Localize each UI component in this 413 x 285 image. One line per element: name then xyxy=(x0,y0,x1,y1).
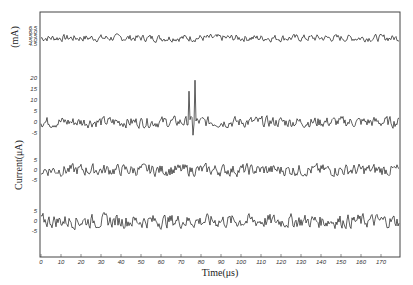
y-tick-label: 15 xyxy=(30,86,37,92)
x-tick-label: 10 xyxy=(58,259,65,265)
x-axis-label: Time(μs) xyxy=(202,267,239,279)
x-tick-label: 120 xyxy=(276,259,287,265)
x-tick-label: 150 xyxy=(336,259,347,265)
y-tick-label: -5 xyxy=(32,177,38,183)
y-tick-label: 5 xyxy=(34,157,38,163)
x-tick-label: 80 xyxy=(198,259,205,265)
traces xyxy=(41,34,399,230)
x-tick-label: 100 xyxy=(236,259,247,265)
chart: 6.56.05.55.04.520151050-550-550-5 010203… xyxy=(0,0,413,285)
x-tick-label: 130 xyxy=(296,259,307,265)
y-tick-label: 0 xyxy=(34,218,38,224)
y-tick-label: 0 xyxy=(34,167,38,173)
x-tick-label: 0 xyxy=(39,259,43,265)
top-panel-y-label: (mA) xyxy=(9,26,21,48)
y-axis-label: Current(μA) xyxy=(13,140,25,190)
y-tick-label: 4.5 xyxy=(29,41,38,47)
y-tick-label: -5 xyxy=(32,130,38,136)
top-mA-trace xyxy=(41,34,399,43)
x-tick-label: 140 xyxy=(316,259,327,265)
y-tick-label: 5 xyxy=(34,108,38,114)
y-tick-label: -5 xyxy=(32,228,38,234)
y-tick-label: 5 xyxy=(34,208,38,214)
y-tick-label: 20 xyxy=(29,75,37,81)
x-tick-label: 110 xyxy=(256,259,266,265)
x-tick-label: 60 xyxy=(158,259,165,265)
y-tick-label: 10 xyxy=(30,97,37,103)
x-tick-label: 30 xyxy=(98,259,105,265)
trace-3 xyxy=(41,163,399,177)
x-tick-label: 20 xyxy=(77,259,85,265)
y-ticks: 6.56.05.55.04.520151050-550-550-5 xyxy=(29,25,38,234)
trace-4 xyxy=(41,212,399,229)
x-tick-label: 70 xyxy=(178,259,185,265)
x-tick-label: 160 xyxy=(356,259,367,265)
y-tick-label: 0 xyxy=(34,119,38,125)
x-tick-label: 50 xyxy=(138,259,145,265)
trace-2 xyxy=(41,80,399,135)
x-tick-label: 40 xyxy=(118,259,125,265)
x-tick-label: 90 xyxy=(218,259,225,265)
x-ticks: 0102030405060708090100110120130140150160… xyxy=(39,254,386,265)
x-tick-label: 170 xyxy=(376,259,387,265)
